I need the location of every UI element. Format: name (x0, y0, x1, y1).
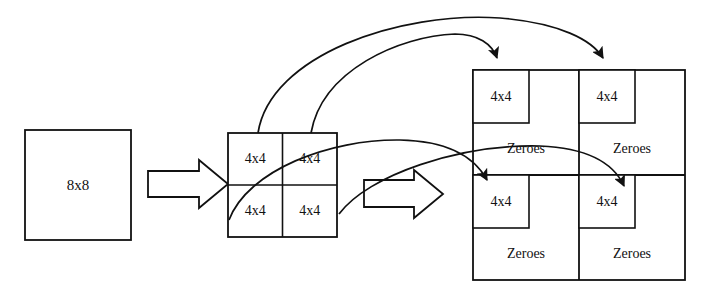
padded-quadrant-0-0-subblock (473, 70, 529, 123)
padded-quadrant-0-1-subblock (579, 70, 635, 123)
padding-block-arrow (364, 170, 443, 218)
diagram-canvas: 8x8 4x4 4x4 4x4 4x4 4x4 Zeroes 4x4 Zeroe… (0, 0, 715, 301)
split-block-arrow (148, 160, 228, 208)
padded-quadrant-1-0-subblock (473, 175, 529, 228)
map-top-left-arrow (311, 34, 497, 133)
diagram-vector-layer (0, 0, 715, 301)
source-block-rect (25, 130, 131, 240)
padded-quadrant-1-1-subblock (579, 175, 635, 228)
